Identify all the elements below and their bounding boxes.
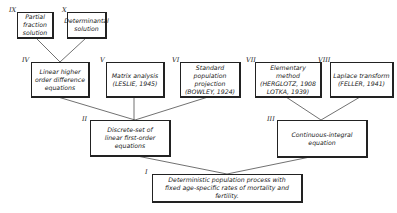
node-VIII: Laplace transform (FELLER, 1941) [330, 62, 394, 98]
edge-IV-II [58, 97, 135, 120]
edge-X-IV [60, 38, 86, 62]
edge-III-I [227, 157, 310, 174]
node-III: Continuous-integral equation [277, 120, 368, 158]
edge-VIII-III [321, 97, 360, 120]
node-V-numeral: V [100, 56, 105, 64]
node-V: Matrix analysis (LESLIE, 1945) [106, 62, 165, 98]
node-II-numeral: II [82, 115, 87, 123]
edge-VII-III [286, 97, 321, 120]
node-III-numeral: III [267, 115, 275, 123]
node-VI-numeral: VI [172, 56, 179, 64]
edge-VI-II [135, 97, 208, 120]
node-I: Deterministic population process with fi… [152, 174, 303, 203]
edge-IX-IV [36, 38, 60, 62]
node-VI: Standard population projection (BOWLEY, … [180, 62, 241, 98]
node-X-numeral: X [62, 6, 67, 14]
node-VIII-numeral: VIII [318, 56, 330, 64]
node-IX: Partial fraction solution [17, 12, 54, 39]
node-I-numeral: I [145, 168, 148, 176]
node-X: Determinantal solution [67, 12, 107, 39]
node-IV: Linear higher order difference equations [31, 62, 90, 98]
edge-II-I [137, 156, 227, 174]
node-IV-numeral: IV [22, 56, 29, 64]
node-II: Discrete-set of linear first-order equat… [90, 120, 171, 157]
node-IX-numeral: IX [9, 6, 16, 14]
node-VII: Elementary method (HERGLOTZ, 1908 LOTKA,… [255, 62, 322, 98]
